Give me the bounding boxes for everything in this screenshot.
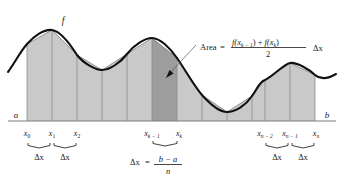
tick-sub-xn-1: n − 1 <box>286 133 298 139</box>
area-denominator: 2 <box>266 49 270 59</box>
label-a: a <box>14 110 19 120</box>
area-label: Area <box>200 42 217 52</box>
figure-svg: a b f x0 x1 x2 xk − 1 xk xn − 2 <box>0 0 344 182</box>
tick-sub-x0: 0 <box>27 133 30 139</box>
tick-label-xn-1: xn − 1 <box>281 129 298 139</box>
area-num-f2: f(x <box>264 37 273 47</box>
tick-label-x0: x0 <box>23 129 31 139</box>
delta-brackets-left: Δx Δx <box>28 143 76 162</box>
delta-label-5: Δx <box>298 152 308 162</box>
delta-x-definition: Δx = b − a n <box>130 154 182 176</box>
area-multiplier: Δx <box>313 43 323 53</box>
bracket-xn-2-xn-1 <box>266 143 288 148</box>
delta-def-denominator: n <box>166 166 170 176</box>
area-num-plus: + <box>258 37 263 47</box>
bracket-xk-1-xk <box>153 141 177 146</box>
tick-label-x1: x1 <box>48 129 56 139</box>
band-x1-x2 <box>52 30 77 121</box>
delta-def-equals: = <box>145 157 150 167</box>
label-f: f <box>62 16 66 26</box>
delta-bracket-center <box>153 141 177 146</box>
delta-label-2: Δx <box>60 152 70 162</box>
tick-sub-xn: n <box>316 133 319 139</box>
tick-sub-xk: k <box>180 133 183 139</box>
tick-label-x2: x2 <box>73 129 81 139</box>
bracket-x1-x2 <box>54 143 76 148</box>
tick-label-xk: xk <box>175 129 183 139</box>
tick-label-xk-1: xk − 1 <box>143 129 160 139</box>
area-num-f2-close: ) <box>276 37 279 47</box>
bracket-x0-x1 <box>28 143 50 148</box>
band-x3-x4 <box>102 54 127 121</box>
area-equals: = <box>220 42 225 52</box>
tick-sub-x2: 2 <box>77 133 80 139</box>
delta-def-numerator: b − a <box>159 154 178 164</box>
area-num-f1: f(x <box>232 37 241 47</box>
delta-brackets-right: Δx Δx <box>266 143 314 162</box>
band-x0-x1 <box>27 30 52 121</box>
highlighted-trapezoid-band <box>152 38 177 121</box>
tick-labels: x0 x1 x2 xk − 1 xk xn − 2 xn − 1 xn <box>23 129 320 139</box>
delta-label-4: Δx <box>272 152 282 162</box>
tick-sub-x1: 1 <box>52 133 55 139</box>
label-b: b <box>325 110 330 120</box>
bracket-xn-1-xn <box>292 143 314 148</box>
tick-label-xn: xn <box>312 129 320 139</box>
delta-label-1: Δx <box>34 152 44 162</box>
delta-def-lhs: Δx <box>130 157 140 167</box>
trapezoidal-rule-figure: a b f x0 x1 x2 xk − 1 xk xn − 2 <box>0 0 344 182</box>
tick-label-xn-2: xn − 2 <box>256 129 273 139</box>
area-num-f1-close: ) <box>253 37 256 47</box>
tick-sub-xn-2: n − 2 <box>261 133 273 139</box>
tick-sub-xk-1: k − 1 <box>148 133 160 139</box>
area-numerator: f(xk − 1)+f(xk) <box>232 37 279 48</box>
